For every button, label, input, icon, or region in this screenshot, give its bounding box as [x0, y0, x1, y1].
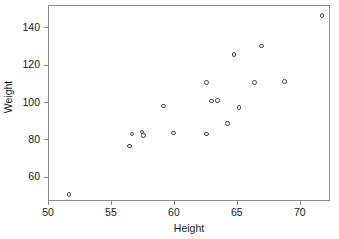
data-point [161, 104, 166, 109]
data-point [252, 80, 257, 85]
data-point [204, 80, 209, 85]
y-axis-tick [44, 177, 48, 178]
x-axis-tick [300, 201, 301, 205]
x-axis-tick-label: 70 [280, 207, 320, 218]
y-axis-tick [44, 27, 48, 28]
data-point [171, 131, 176, 136]
data-point [320, 13, 325, 18]
data-point [232, 52, 237, 57]
y-axis-tick-label: 140 [0, 22, 40, 33]
data-point [215, 98, 220, 103]
data-point [67, 192, 72, 197]
x-axis-tick [48, 201, 49, 205]
data-point [204, 132, 209, 137]
x-axis-tick-label: 50 [28, 207, 68, 218]
y-axis-tick [44, 65, 48, 66]
y-axis-tick-label: 60 [0, 171, 40, 182]
scatter-plot-figure: 60801001201405055606570 Height Weight [0, 0, 339, 239]
x-axis-tick-label: 55 [91, 207, 131, 218]
data-point [140, 130, 145, 135]
x-axis-tick-label: 65 [217, 207, 257, 218]
x-axis-title: Height [48, 222, 330, 234]
data-point [282, 79, 287, 84]
data-point [130, 132, 135, 137]
data-point [259, 44, 264, 49]
data-point [209, 99, 214, 104]
x-axis-tick-label: 60 [154, 207, 194, 218]
y-axis-title: Weight [2, 67, 14, 127]
y-axis-tick [44, 102, 48, 103]
data-point [237, 105, 242, 110]
data-point [225, 121, 230, 126]
data-point [141, 133, 146, 138]
plot-area [48, 5, 330, 201]
y-axis-tick [44, 139, 48, 140]
data-points-layer [49, 6, 329, 200]
x-axis-tick [111, 201, 112, 205]
x-axis-tick [174, 201, 175, 205]
data-point [127, 144, 132, 149]
x-axis-tick [237, 201, 238, 205]
y-axis-tick-label: 80 [0, 134, 40, 145]
